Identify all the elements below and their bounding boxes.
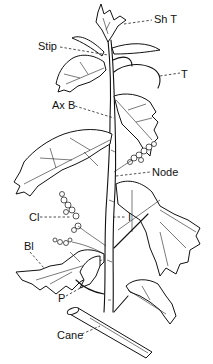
leaf-large-right — [116, 181, 200, 276]
label-cane: Cane — [57, 329, 83, 341]
leaf-large-left — [14, 130, 112, 197]
petiole-lower-right — [114, 296, 128, 312]
leader-bl — [30, 252, 44, 268]
label-petiole: P — [58, 292, 65, 304]
label-shoot-tip: Sh T — [154, 13, 177, 25]
flower-cluster-right — [114, 142, 157, 173]
upper-leaf-right — [112, 44, 160, 54]
main-stem — [104, 40, 116, 312]
leader-t — [160, 73, 180, 76]
label-stipule: Stip — [38, 40, 57, 52]
label-tendril: T — [181, 68, 188, 80]
leaf-upper-left — [56, 55, 106, 92]
leaf-lower-right — [126, 280, 176, 324]
plant-drawing — [0, 0, 213, 364]
shoot-tip — [96, 4, 126, 42]
label-internode: I — [128, 211, 131, 223]
upper-leaf-left — [72, 37, 104, 56]
label-axillary-bud: Ax B — [52, 99, 75, 111]
leader-sh-t — [124, 20, 152, 24]
label-blade: Bl — [24, 240, 34, 252]
leader-ax-b — [75, 106, 114, 118]
label-cluster: Cl — [29, 211, 39, 223]
flower-cluster-left — [60, 192, 107, 247]
grapevine-diagram: Sh T Stip T Ax B Node Cl I Bl P Cane — [0, 0, 213, 364]
tendril-upper — [114, 65, 160, 88]
label-node: Node — [152, 166, 178, 178]
leader-node — [116, 172, 150, 176]
